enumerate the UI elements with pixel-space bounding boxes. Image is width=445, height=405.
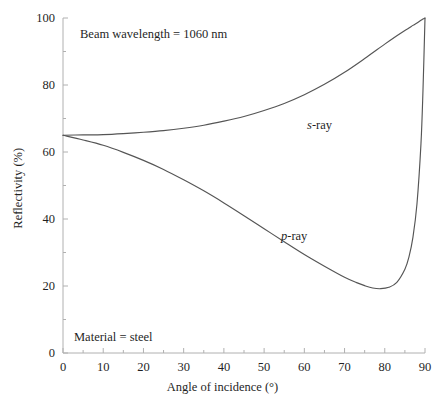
x-tick-label: 50 (247, 361, 281, 374)
reflectivity-chart-figure: 020406080100 0102030405060708090 Reflect… (0, 0, 445, 405)
curve-label-p-ray: p-ray (281, 230, 307, 243)
data-curves-group (63, 18, 425, 289)
curve-p-ray (63, 18, 425, 289)
y-tick-label: 40 (21, 213, 55, 226)
annotation-beam-wavelength: Beam wavelength = 1060 nm (80, 28, 227, 41)
x-tick-label: 10 (86, 361, 120, 374)
x-tick-label: 30 (167, 361, 201, 374)
x-tick-label: 0 (46, 361, 80, 374)
curve-label-s-ray: s-ray (307, 119, 332, 132)
y-axis-title: Reflectivity (%) (12, 128, 25, 248)
annotation-material: Material = steel (74, 331, 153, 344)
x-tick-label: 60 (287, 361, 321, 374)
plot-canvas (0, 0, 445, 405)
x-tick-label: 90 (408, 361, 442, 374)
s-ray-label-rest: -ray (312, 118, 332, 132)
p-ray-label-rest: -ray (287, 229, 307, 243)
y-tick-label: 60 (21, 146, 55, 159)
x-tick-label: 20 (126, 361, 160, 374)
x-tick-label: 40 (207, 361, 241, 374)
y-tick-label: 80 (21, 79, 55, 92)
y-tick-label: 100 (21, 12, 55, 25)
x-tick-label: 70 (328, 361, 362, 374)
x-tick-label: 80 (368, 361, 402, 374)
x-axis-title: Angle of incidence (°) (0, 381, 445, 394)
tick-marks-group (63, 18, 425, 353)
axes-group (63, 18, 425, 353)
y-tick-label: 20 (21, 280, 55, 293)
y-tick-label: 0 (21, 347, 55, 360)
